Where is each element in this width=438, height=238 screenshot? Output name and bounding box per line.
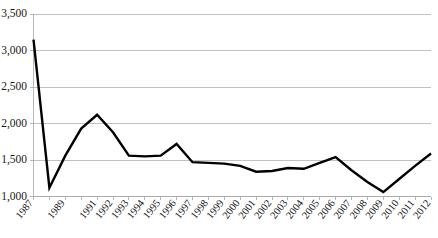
gridlines <box>34 14 432 197</box>
x-axis-tick-label: 2002 <box>252 197 274 220</box>
x-axis-tick-label: 1995 <box>141 197 163 220</box>
x-axis-tick-label: 1996 <box>157 197 179 220</box>
x-axis-tick-label: 1993 <box>109 197 131 220</box>
x-axis-tick-label: 1991 <box>77 197 99 220</box>
x-axis-tick-label: 1999 <box>204 197 226 220</box>
y-axis-tick-label: 2,000 <box>1 117 27 130</box>
x-axis-tick-label: 1997 <box>172 197 194 220</box>
data-series <box>34 40 432 193</box>
line-chart: 3,5003,0002,5002,0001,5001,000 198719891… <box>0 0 438 238</box>
x-axis-tick-label: 2005 <box>300 197 322 220</box>
x-axis-tick-label: 2001 <box>236 197 258 220</box>
y-axis-tick-label: 2,500 <box>1 80 27 93</box>
x-axis-tick-label: 2012 <box>411 197 433 220</box>
x-axis-tick-label: 2006 <box>316 197 338 220</box>
x-axis-tick-label: 2009 <box>363 197 385 220</box>
chart-canvas: 3,5003,0002,5002,0001,5001,000 198719891… <box>0 0 438 238</box>
y-axis-tick-label: 3,000 <box>1 44 27 57</box>
x-axis-tick-label: 1989 <box>45 197 67 220</box>
series-line-series-1 <box>34 40 432 193</box>
x-axis-labels: 1987198919911992199319941995199619971998… <box>13 197 432 221</box>
x-axis-tick-label: 1992 <box>93 197 115 220</box>
x-axis-tick-label: 2008 <box>347 197 369 220</box>
y-axis-tick-label: 1,500 <box>1 153 27 166</box>
y-axis-tick-label: 3,500 <box>1 7 27 20</box>
x-axis-tick-label: 2003 <box>268 197 290 220</box>
x-axis-tick-label: 2007 <box>331 197 353 220</box>
x-axis-tick-label: 2010 <box>379 197 401 220</box>
y-axis-labels: 3,5003,0002,5002,0001,5001,000 <box>1 7 27 203</box>
x-axis-tick-label: 1998 <box>188 197 210 220</box>
x-axis-tick-label: 2000 <box>220 197 242 220</box>
